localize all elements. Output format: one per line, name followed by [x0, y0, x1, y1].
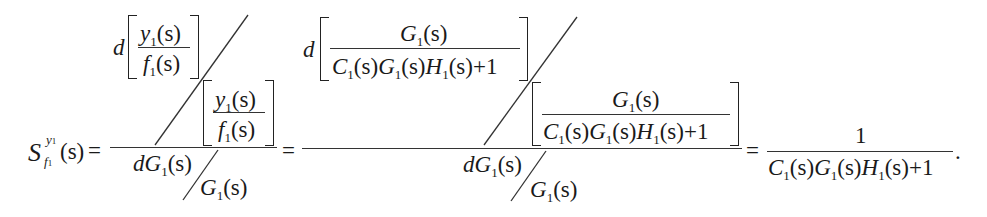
term2-d: d	[303, 38, 315, 61]
lhs-S: S	[28, 140, 41, 166]
term1-G1: G1(s)	[200, 176, 247, 199]
term2-bracket2-left	[532, 82, 541, 146]
term2-fraction-line	[302, 148, 742, 149]
term1-inner-line	[138, 47, 190, 48]
lhs-sub: f1	[44, 155, 52, 168]
result-denominator: C1(s)G1(s)H1(s)+1	[768, 156, 933, 179]
equals-1: =	[88, 139, 101, 162]
equals-2: =	[282, 139, 295, 162]
result-numerator: 1	[855, 124, 867, 147]
term2-G1-top: G1(s)	[400, 22, 447, 45]
term2-div-G1: G1(s)	[612, 88, 659, 111]
term1-bracket2-left	[203, 80, 212, 146]
lhs-sup: y1	[46, 133, 56, 146]
term2-bracket-left	[320, 17, 329, 81]
term1-div-y1: y1(s)	[215, 88, 256, 111]
result-fraction-line	[767, 151, 953, 152]
term2-G1: G1(s)	[530, 178, 577, 201]
term2-CGH: C1(s)G1(s)H1(s)+1	[332, 55, 497, 78]
period: .	[955, 140, 961, 163]
term1-bracket-right	[190, 15, 199, 79]
equals-3: =	[746, 139, 759, 162]
term1-f1: f1(s)	[143, 52, 180, 75]
term1-div-f1: f1(s)	[218, 118, 255, 141]
term1-fraction-line	[110, 147, 277, 148]
term2-bracket-right	[519, 17, 528, 81]
term2-div-CGH: C1(s)G1(s)H1(s)+1	[543, 120, 708, 143]
term2-dG1: dG1(s)	[463, 153, 522, 176]
term1-bracket-left	[128, 15, 137, 79]
term1-inner-line2	[213, 112, 265, 113]
term1-bracket2-right	[265, 80, 274, 146]
term2-bracket2-right	[730, 82, 739, 146]
term2-inner-line	[330, 48, 520, 49]
term1-dG1: dG1(s)	[133, 152, 192, 175]
term1-y1: y1(s)	[140, 22, 181, 45]
term2-inner-line2	[542, 114, 730, 115]
lhs-arg: (s)	[60, 140, 84, 163]
term1-d: d	[113, 36, 125, 59]
